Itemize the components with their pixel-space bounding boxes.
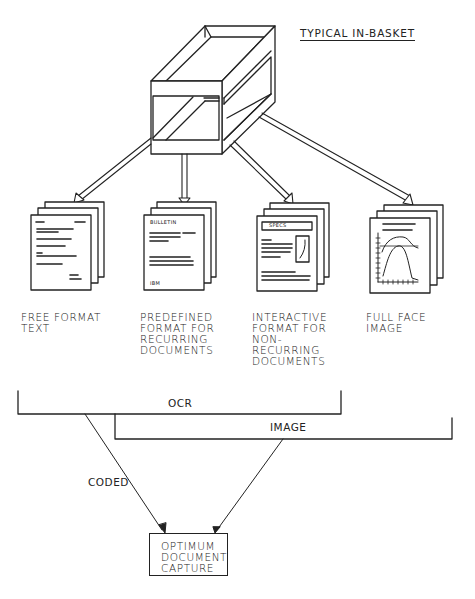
in-basket-icon: [151, 26, 275, 154]
doc-label-interactive: INTERACTIVE FORMAT FOR NON- RECURRING DO…: [252, 312, 327, 367]
graph-image-stack-icon: [370, 205, 443, 293]
text-document-stack-icon: [31, 202, 104, 290]
bulletin-header-text: BULLETIN: [150, 219, 177, 225]
doc-label-predefined: PREDEFINED FORMAT FOR RECURRING DOCUMENT…: [140, 312, 214, 356]
specs-header-text: SPECS: [269, 222, 287, 228]
coded-label: CODED: [88, 476, 129, 488]
output-label: OPTIMUM DOCUMENT CAPTURE: [161, 541, 227, 574]
ibm-footer-text: IBM: [150, 280, 160, 286]
diagram-canvas: [0, 0, 475, 599]
bulletin-form-stack-icon: [144, 202, 216, 290]
specs-form-stack-icon: [257, 203, 329, 291]
image-label: IMAGE: [270, 421, 306, 433]
diagram-title: TYPICAL IN-BASKET: [300, 27, 415, 41]
doc-label-free-format: FREE FORMAT TEXT: [21, 312, 101, 334]
doc-label-full-face: FULL FACE IMAGE: [366, 312, 426, 334]
ocr-label: OCR: [168, 397, 192, 409]
optimum-document-capture-box: OPTIMUM DOCUMENT CAPTURE: [149, 533, 228, 576]
